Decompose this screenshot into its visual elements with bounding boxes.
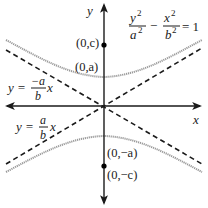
equation-y: y — [128, 10, 136, 25]
x-axis-label: x — [192, 112, 199, 127]
hyperbola-equation: y 2 a 2 − x 2 b 2 = 1 — [128, 8, 199, 42]
equation-a-exp: 2 — [138, 25, 143, 35]
asymptote-positive-lhs: y = — [14, 119, 34, 134]
equation-y-exp: 2 — [137, 8, 142, 18]
asymptote-positive-var: x — [49, 119, 56, 134]
equation-equals: = 1 — [182, 19, 199, 34]
asymptote-negative-num: −a — [31, 74, 45, 88]
equation-minus: − — [150, 18, 157, 33]
vertex-top-label: (0,a) — [75, 60, 98, 74]
asymptote-positive-num: a — [40, 113, 46, 127]
focus-bottom-point — [101, 163, 106, 168]
equation-x-exp: 2 — [171, 8, 176, 18]
asymptote-negative-label: y = −a b x — [6, 74, 53, 103]
asymptote-positive-den: b — [40, 128, 46, 142]
y-axis-label: y — [85, 3, 93, 18]
equation-b-exp: 2 — [172, 25, 177, 35]
hyperbola-diagram: y x (0,c) (0,a) (0,−a) (0,−c) y 2 a 2 − … — [0, 0, 208, 208]
equation-b: b — [165, 27, 172, 42]
vertex-bottom-label: (0,−a) — [107, 146, 137, 160]
focus-top-point — [101, 42, 106, 47]
asymptote-negative-den: b — [35, 89, 41, 103]
equation-x: x — [163, 10, 170, 25]
asymptote-negative-var: x — [46, 80, 53, 95]
focus-bottom-label: (0,−c) — [107, 168, 137, 182]
equation-a: a — [130, 27, 137, 42]
focus-top-label: (0,c) — [76, 36, 99, 50]
asymptote-negative-lhs: y = — [6, 80, 26, 95]
